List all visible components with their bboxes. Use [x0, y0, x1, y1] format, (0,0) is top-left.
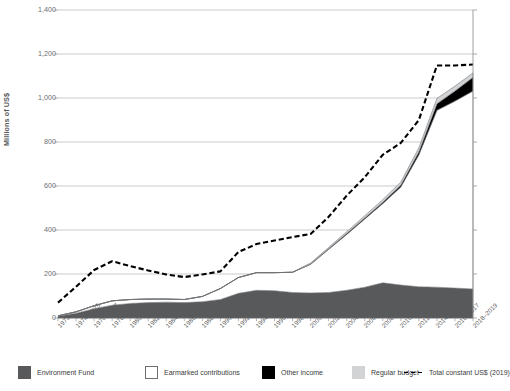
legend-swatch-icon: [18, 366, 31, 379]
legend-swatch-icon: [145, 366, 158, 379]
legend-item[interactable]: Environment Fund: [18, 361, 94, 383]
chart-legend: Environment FundEarmarked contributionsO…: [0, 361, 496, 383]
legend-swatch-dashed-line-icon: [404, 366, 424, 379]
legend-swatch-icon: [262, 366, 275, 379]
legend-item[interactable]: Total constant US$ (2019): [404, 361, 510, 383]
legend-item[interactable]: Earmarked contributions: [145, 361, 240, 383]
legend-item-label: Earmarked contributions: [164, 369, 240, 376]
area-earmarked-contributions: [58, 91, 473, 316]
legend-item[interactable]: Other income: [262, 361, 323, 383]
legend-swatch-icon: [352, 366, 365, 379]
legend-item-label: Other income: [281, 369, 323, 376]
legend-item-label: Environment Fund: [37, 369, 94, 376]
legend-item-label: Total constant US$ (2019): [429, 369, 510, 376]
